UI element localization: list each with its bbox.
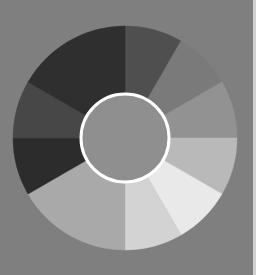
center-circle — [81, 94, 169, 182]
value-wheel-canvas — [0, 0, 256, 275]
image-edge-strip — [253, 0, 256, 275]
grayscale-value-wheel — [0, 0, 256, 275]
